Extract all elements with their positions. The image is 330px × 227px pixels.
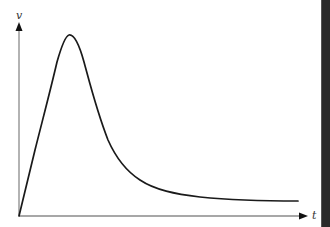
- chart-canvas: v t: [0, 0, 330, 227]
- y-axis-label: v: [16, 10, 22, 21]
- right-edge-bar: [321, 0, 330, 227]
- velocity-curve: [19, 35, 298, 216]
- y-axis-arrow-icon: [16, 22, 23, 31]
- x-axis-arrow-icon: [299, 213, 308, 220]
- velocity-time-plot: [0, 0, 330, 227]
- x-axis-label: t: [312, 210, 316, 221]
